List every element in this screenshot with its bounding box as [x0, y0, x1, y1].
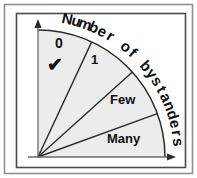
sector-label-1: 1 — [91, 52, 98, 67]
sector-label-0: 0 — [55, 35, 63, 51]
figure-root: 0 ✔ 1 Few Many Numberofbystanders — [0, 0, 197, 178]
bystanders-fan-diagram: 0 ✔ 1 Few Many Numberofbystanders — [0, 0, 197, 178]
sector-label-many: Many — [107, 131, 141, 146]
sector-label-few: Few — [110, 92, 136, 107]
selected-check-icon: ✔ — [47, 54, 63, 75]
arc-title-char: s — [170, 137, 188, 147]
